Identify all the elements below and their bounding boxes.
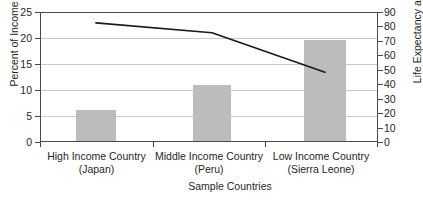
- left-tick-label-25: 25: [4, 7, 32, 17]
- right-tickmark-90: [378, 12, 383, 13]
- x-category-sublabel: (Japan): [40, 163, 153, 176]
- x-tickmark-0: [40, 142, 41, 147]
- right-tick-label-60: 60: [384, 50, 414, 60]
- right-tick-label-80: 80: [384, 21, 414, 31]
- right-tickmark-80: [378, 26, 383, 27]
- left-tick-label-10: 10: [4, 85, 32, 95]
- x-axis-title-wrap: Sample Countries: [0, 180, 416, 192]
- x-tickmark-1: [153, 142, 154, 147]
- right-tick-label-30: 30: [384, 94, 414, 104]
- x-category-sublabel: (Sierra Leone): [265, 163, 377, 176]
- x-tickmark-3: [377, 142, 378, 147]
- x-category-label: Low Income Country: [273, 150, 369, 162]
- x-category-label: Middle Income Country: [155, 150, 263, 162]
- right-tickmark-30: [378, 99, 383, 100]
- right-tick-label-70: 70: [384, 36, 414, 46]
- right-tick-label-10: 10: [384, 123, 414, 133]
- x-axis-title: Sample Countries: [188, 180, 271, 192]
- plot-area: [40, 12, 378, 142]
- right-tickmark-10: [378, 128, 383, 129]
- x-category-sublabel: (Peru): [153, 163, 265, 176]
- x-tickmark-2: [265, 142, 266, 147]
- right-tick-label-50: 50: [384, 65, 414, 75]
- x-category-middle-income-country: Middle Income Country (Peru): [153, 150, 265, 176]
- x-category-low-income-country: Low Income Country (Sierra Leone): [265, 150, 377, 176]
- right-tick-label-90: 90: [384, 7, 414, 17]
- life-expectancy-line: [41, 13, 377, 141]
- left-tick-label-5: 5: [4, 111, 32, 121]
- x-category-label: High Income Country: [47, 150, 146, 162]
- right-tick-label-0: 0: [384, 137, 414, 147]
- right-tickmark-70: [378, 41, 383, 42]
- x-category-high-income-country: High Income Country (Japan): [40, 150, 153, 176]
- right-tickmark-20: [378, 113, 383, 114]
- right-tickmark-50: [378, 70, 383, 71]
- left-tick-label-15: 15: [4, 59, 32, 69]
- right-tickmark-0: [378, 142, 383, 143]
- right-tick-label-40: 40: [384, 79, 414, 89]
- left-tick-label-20: 20: [4, 33, 32, 43]
- right-tickmark-60: [378, 55, 383, 56]
- right-tickmark-40: [378, 84, 383, 85]
- right-tick-label-20: 20: [384, 108, 414, 118]
- left-tick-label-0: 0: [4, 137, 32, 147]
